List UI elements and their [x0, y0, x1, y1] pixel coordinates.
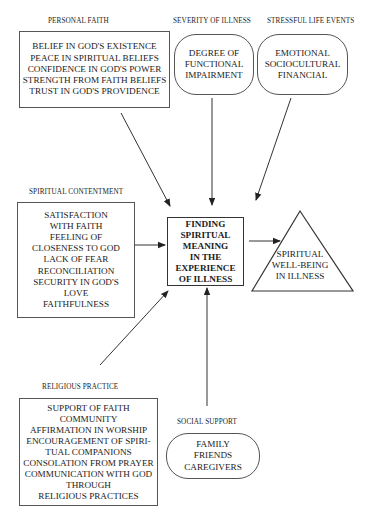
- personal-faith-box: BELIEF IN GOD'S EXISTENCE PEACE IN SPIRI…: [19, 31, 170, 108]
- religious-line: AFFIRMATION IN WORSHIP: [30, 425, 147, 436]
- religious-practice-heading: RELIGIOUS PRACTICE: [42, 383, 118, 391]
- severity-line: FUNCTIONAL: [185, 59, 244, 70]
- stressful-life-events-box: EMOTIONAL SOCIOCULTURAL FINANCIAL: [257, 34, 348, 95]
- well-being-line: SPIRITUAL: [262, 249, 338, 260]
- contentment-line: LACK OF FEAR: [44, 254, 109, 265]
- social-support-line: FAMILY: [196, 439, 230, 450]
- religious-line: COMMUNICATION WITH GOD: [25, 469, 152, 480]
- religious-line: THROUGH: [66, 480, 111, 491]
- religious-line: ENCOURAGEMENT OF SPIRI-: [26, 436, 150, 447]
- personal-faith-line: STRENGTH FROM FAITH BELIEFS: [23, 75, 167, 86]
- severity-of-illness-heading: SEVERITY OF ILLNESS: [173, 17, 251, 25]
- finding-meaning-line: SPIRITUAL: [180, 230, 230, 241]
- contentment-line: LOVE: [64, 288, 89, 299]
- religious-line: RELIGIOUS PRACTICES: [38, 491, 138, 502]
- finding-meaning-line: EXPERIENCE: [175, 263, 235, 274]
- contentment-line: SATISFACTION: [44, 210, 108, 221]
- contentment-line: CLOSENESS TO GOD: [32, 243, 120, 254]
- contentment-line: RECONCILIATION: [38, 266, 115, 277]
- religious-line: COMMUNITY: [60, 414, 118, 425]
- finding-meaning-box: FINDING SPIRITUAL MEANING IN THE EXPERIE…: [167, 217, 244, 286]
- severity-line: IMPAIRMENT: [185, 70, 242, 81]
- religious-line: CONSOLATION FROM PRAYER: [23, 458, 153, 469]
- religious-practice-box: SUPPORT OF FAITH COMMUNITY AFFIRMATION I…: [19, 398, 158, 506]
- personal-faith-line: CONFIDENCE IN GOD'S POWER: [28, 64, 162, 75]
- finding-meaning-line: IN THE: [190, 252, 222, 263]
- well-being-line: WELL-BEING: [262, 260, 338, 271]
- well-being-line: IN ILLNESS: [262, 271, 338, 282]
- contentment-line: FEELING OF: [50, 232, 102, 243]
- finding-meaning-line: OF ILLNESS: [179, 274, 233, 285]
- well-being-label: SPIRITUAL WELL-BEING IN ILLNESS: [262, 249, 338, 282]
- contentment-line: WITH FAITH: [50, 221, 103, 232]
- stressful-line: FINANCIAL: [278, 70, 328, 81]
- edge-personal-faith: [121, 113, 170, 206]
- spiritual-contentment-box: SATISFACTION WITH FAITH FEELING OF CLOSE…: [17, 202, 135, 318]
- personal-faith-line: BELIEF IN GOD'S EXISTENCE: [32, 41, 156, 52]
- social-support-heading: SOCIAL SUPPORT: [177, 418, 237, 426]
- severity-of-illness-box: DEGREE OF FUNCTIONAL IMPAIRMENT: [174, 34, 254, 95]
- stressful-life-events-heading: STRESSFUL LIFE EVENTS: [267, 17, 354, 25]
- severity-line: DEGREE OF: [189, 48, 239, 59]
- personal-faith-line: PEACE IN SPIRITUAL BELIEFS: [30, 53, 159, 64]
- social-support-line: CAREGIVERS: [184, 462, 242, 473]
- social-support-box: FAMILY FRIENDS CAREGIVERS: [166, 433, 260, 479]
- religious-line: TUAL COMPANIONS: [45, 447, 131, 458]
- finding-meaning-line: FINDING: [186, 219, 226, 230]
- spiritual-contentment-heading: SPIRITUAL CONTENTMENT: [29, 188, 123, 196]
- edge-stressful-life-events: [256, 98, 291, 200]
- social-support-line: FRIENDS: [194, 450, 232, 461]
- religious-line: SUPPORT OF FAITH: [47, 403, 129, 414]
- stressful-line: EMOTIONAL: [275, 48, 330, 59]
- stressful-line: SOCIOCULTURAL: [265, 59, 341, 70]
- personal-faith-heading: PERSONAL FAITH: [48, 17, 109, 25]
- personal-faith-line: TRUST IN GOD'S PROVIDENCE: [29, 86, 159, 97]
- contentment-line: FAITHFULNESS: [43, 299, 109, 310]
- contentment-line: SECURITY IN GOD'S: [33, 277, 119, 288]
- finding-meaning-line: MEANING: [183, 241, 228, 252]
